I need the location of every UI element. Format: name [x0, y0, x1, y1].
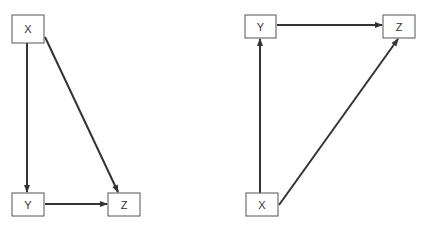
node-x-label: X	[24, 23, 32, 35]
node-z: Z	[383, 15, 415, 38]
node-x-label: X	[258, 199, 266, 211]
node-z: Z	[108, 193, 140, 216]
edge-x-to-z	[279, 39, 398, 205]
edge-x-to-z	[45, 37, 118, 192]
causal-diagrams: X Y Z Y Z X	[0, 0, 425, 227]
node-x: X	[12, 15, 44, 43]
left-diagram: X Y Z	[12, 15, 140, 216]
right-diagram: Y Z X	[245, 15, 415, 216]
node-y: Y	[12, 193, 44, 216]
node-y-label: Y	[24, 199, 32, 211]
node-y: Y	[245, 15, 276, 38]
node-z-label: Z	[121, 199, 128, 211]
node-z-label: Z	[396, 21, 403, 33]
node-y-label: Y	[257, 21, 265, 33]
node-x: X	[246, 193, 278, 216]
